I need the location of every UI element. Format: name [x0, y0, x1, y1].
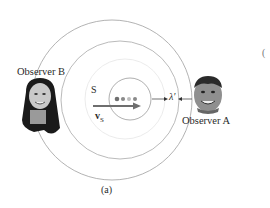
wavelength-label: λ′ — [169, 91, 176, 102]
velocity-subscript: S — [100, 116, 104, 124]
wavefront-3 — [61, 41, 179, 159]
observer-a-label: Observer A — [182, 115, 230, 126]
doppler-figure: Observer B Observer A S vS λ′ (a) ( — [0, 0, 270, 208]
observer-a-face-icon — [194, 76, 222, 114]
velocity-arrow — [93, 103, 141, 110]
velocity-label: vS — [95, 110, 104, 124]
figure-caption: (a) — [101, 184, 112, 195]
observer-b-label: Observer B — [17, 66, 65, 77]
stray-parenthesis: ( — [262, 47, 265, 58]
observer-b-face-icon — [22, 78, 60, 134]
wavefront-diagram — [0, 0, 270, 208]
source-positions — [115, 97, 137, 102]
source-label: S — [91, 84, 97, 95]
